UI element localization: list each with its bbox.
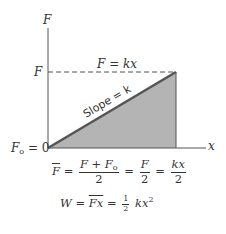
work-equation: W = Fx = 12 kx2 xyxy=(60,195,154,214)
dashed-line-label: F = kx xyxy=(97,58,137,70)
average-force-equation: F = F + Fo2 = F2 = kx2 xyxy=(52,158,188,186)
x-axis-label: x xyxy=(208,140,215,152)
origin-label: Fo = 0 xyxy=(11,142,49,156)
y-axis-label: F xyxy=(43,14,51,26)
force-level-label: F xyxy=(34,66,42,78)
